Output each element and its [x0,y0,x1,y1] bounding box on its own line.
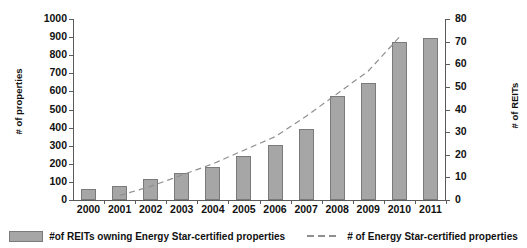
x-category-label-2011: 2011 [410,203,450,215]
legend-label-line: # of Energy Star-certified properties [347,231,518,242]
y-tick-mark-right [446,110,450,111]
legend-item-line: # of Energy Star-certified properties [307,231,518,242]
y-axis-title-left: # of properties [13,57,24,147]
y-tick-label-left: 900 [33,31,67,42]
dashed-trend-line [73,19,446,201]
y-tick-label-right: 20 [455,149,489,160]
y-tick-label-right: 60 [455,58,489,69]
y-axis-title-right: # of REITs [509,61,520,151]
y-tick-mark-right [446,132,450,133]
y-tick-label-left: 700 [33,67,67,78]
y-tick-label-left: 300 [33,140,67,151]
plot-area [73,19,446,200]
legend-label-bars: #of REITs owning Energy Star-certified p… [49,231,285,242]
y-tick-label-left: 600 [33,85,67,96]
y-tick-mark-right [446,64,450,65]
chart-legend: #of REITs owning Energy Star-certified p… [0,226,527,246]
y-tick-mark-right [446,42,450,43]
y-tick-mark-right [446,177,450,178]
chart-container: # of properties # of REITs 1000900800700… [0,0,527,248]
y-tick-label-right: 40 [455,104,489,115]
y-tick-label-left: 0 [33,194,67,205]
y-tick-label-right: 30 [455,126,489,137]
y-tick-label-right: 80 [455,13,489,24]
y-tick-label-left: 400 [33,122,67,133]
legend-item-bars: #of REITs owning Energy Star-certified p… [9,231,285,242]
y-tick-label-right: 0 [455,194,489,205]
y-tick-label-right: 70 [455,36,489,47]
y-tick-label-right: 10 [455,171,489,182]
y-tick-label-left: 200 [33,158,67,169]
y-tick-mark-right [446,155,450,156]
y-tick-label-left: 800 [33,49,67,60]
y-tick-label-right: 50 [455,81,489,92]
y-tick-mark-right [446,19,450,20]
y-tick-label-left: 1000 [33,13,67,24]
y-tick-label-left: 100 [33,176,67,187]
legend-dash-icon [307,235,341,237]
y-tick-mark-right [446,87,450,88]
y-tick-label-left: 500 [33,104,67,115]
legend-swatch-icon [9,231,43,242]
